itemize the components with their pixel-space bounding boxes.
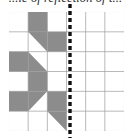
mirror-line-svg	[68, 4, 72, 138]
shape-cell-c3r2	[47, 32, 66, 52]
mirror-line	[68, 4, 72, 138]
grid-container	[9, 12, 124, 131]
shape-cell-c2r4	[28, 72, 47, 92]
grid-svg	[9, 12, 124, 131]
shape-cell-c3r5	[47, 91, 66, 111]
shape-cell-c2r1	[28, 12, 47, 32]
reflection-figure: ...le of reflection of t...	[0, 0, 131, 138]
shape-cell-c1r5	[9, 91, 28, 111]
caption-text: ...le of reflection of t...	[0, 0, 131, 5]
caption-strip: ...le of reflection of t...	[0, 0, 131, 7]
shape-cell-c1r3	[9, 52, 28, 72]
